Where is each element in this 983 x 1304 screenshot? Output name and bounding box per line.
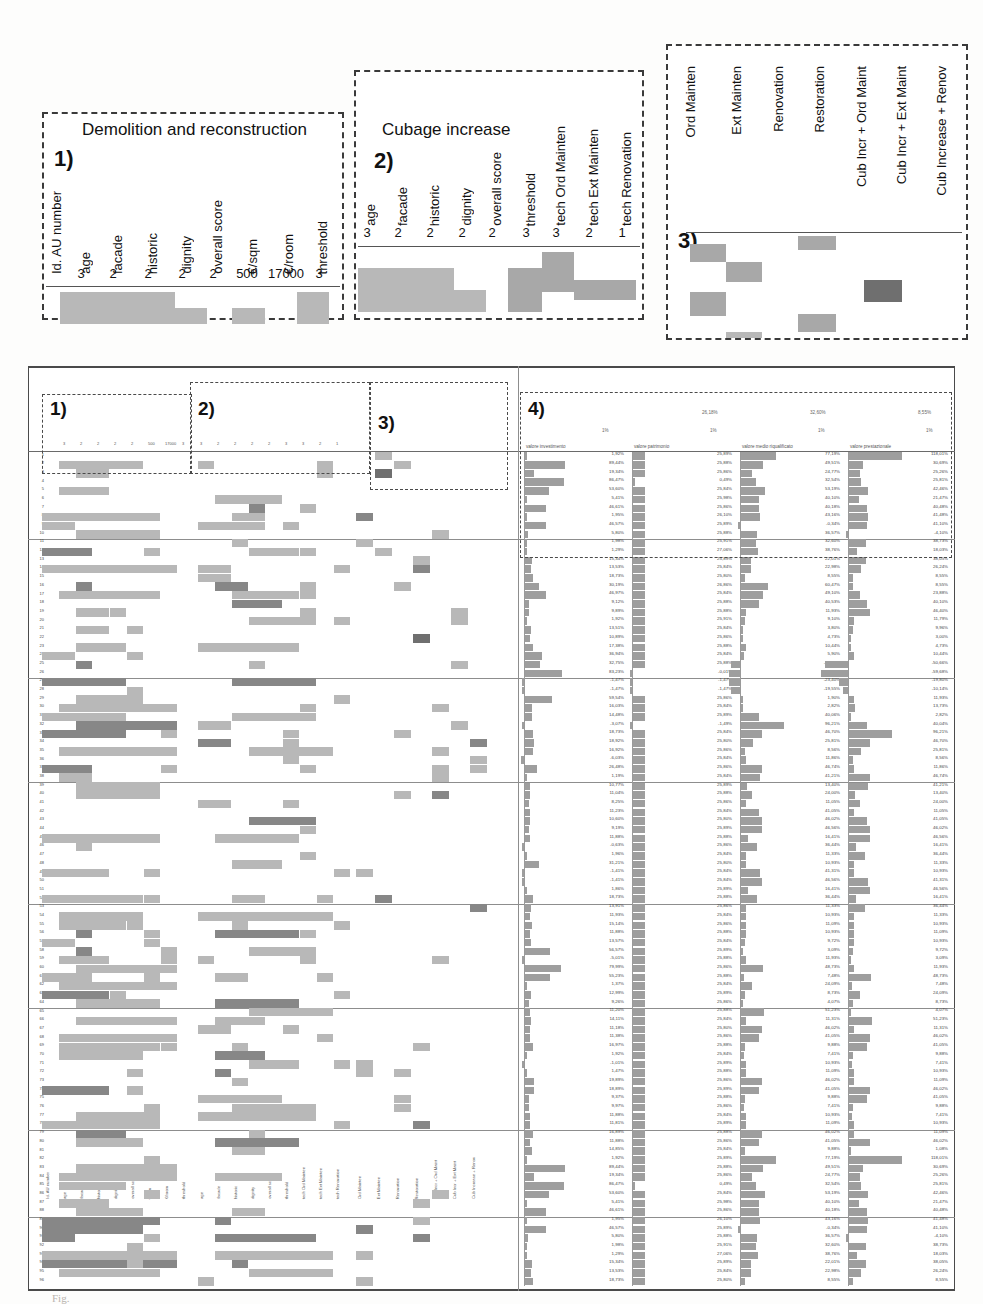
- panel4-value-label: 1,95%: [582, 1217, 624, 1221]
- panel4-value-label: 25,86%: [690, 904, 732, 908]
- panel4-bar: [741, 948, 743, 955]
- panel4-value-label: 11,93%: [798, 609, 840, 613]
- panel4-bar: [741, 583, 768, 590]
- panel4-bar: [525, 1165, 565, 1172]
- matrix-mini-col-label: €/room: [165, 1186, 169, 1199]
- col-label-cub-increase-renov: Cub Increase + Renov: [935, 66, 948, 196]
- panel4-bar: [633, 635, 645, 642]
- panel4-value-label: -3,07%: [582, 722, 624, 726]
- matrix-row-number: 15: [30, 574, 44, 578]
- panel4-bar: [741, 852, 746, 859]
- matrix-cell: [161, 947, 177, 955]
- panel4-bar: [839, 678, 848, 685]
- panel4-bar: [741, 1087, 759, 1094]
- panel4-bar: [525, 713, 532, 720]
- panel4-bar: [849, 635, 851, 642]
- matrix-cell: [249, 504, 265, 512]
- panel4-value-label: 40,10%: [798, 1200, 840, 1204]
- matrix-cell: [232, 713, 316, 721]
- panel4-bar: [741, 565, 751, 572]
- panel4-value-label: 11,86%: [906, 765, 948, 769]
- panel4-bar: [525, 887, 527, 894]
- matrix-row-number: 77: [30, 1113, 44, 1117]
- panel4-value-label: 46,40%: [906, 609, 948, 613]
- panel4-value-label: 24,09%: [906, 991, 948, 995]
- panel4-value-label: 8,73%: [906, 1000, 948, 1004]
- matrix-row-number: 20: [30, 618, 44, 622]
- col-label-renovation: Renovation: [772, 66, 785, 132]
- col-value-facade: 2: [389, 225, 407, 240]
- panel4-bar: [843, 687, 848, 694]
- matrix-cell: [432, 773, 449, 781]
- matrix-cell: [42, 991, 109, 999]
- panel4-bar: [633, 878, 645, 885]
- panel4-bar: [849, 878, 868, 885]
- matrix-cell: [283, 800, 299, 808]
- matrix-row-number: 65: [30, 1009, 44, 1013]
- panel4-bar: [525, 1043, 533, 1050]
- panel4-value-label: 86,47%: [582, 1182, 624, 1186]
- panel4-bar: [525, 1113, 530, 1120]
- panel4-value-label: 25,86%: [690, 1104, 732, 1108]
- matrix-cell: [215, 930, 299, 938]
- panel4-bar: [633, 1078, 645, 1085]
- panel4-bar: [525, 974, 550, 981]
- panel4-value-label: 41,05%: [798, 1139, 840, 1143]
- matrix-cell: [334, 695, 350, 703]
- panel4-bar: [849, 626, 853, 633]
- matrix-cell: [76, 582, 92, 590]
- panel4-value-label: 25,89%: [690, 991, 732, 995]
- matrix-cell: [249, 747, 333, 755]
- col-label-overall-score: overall score: [211, 200, 224, 274]
- panel4-value-label: 11,33%: [906, 913, 948, 917]
- panel4-bar: [633, 1217, 645, 1224]
- col-value-tech-ext: 2: [580, 225, 598, 240]
- panel4-bar: [633, 1234, 645, 1241]
- panel4-value-label: 13,57%: [582, 939, 624, 943]
- panel4-value-label: 18,89%: [582, 1087, 624, 1091]
- matrix-cell: [232, 921, 248, 929]
- panel4-bar: [849, 1156, 902, 1163]
- matrix-cell: [60, 308, 207, 324]
- panel4-value-label: 32,75%: [582, 661, 624, 665]
- matrix-cell: [394, 791, 411, 799]
- panel4-bar: [633, 930, 645, 937]
- matrix-row-number: 36: [30, 757, 44, 761]
- panel4-bar: [741, 765, 762, 772]
- matrix-cell: [198, 1095, 282, 1103]
- panel4-bar: [633, 1208, 645, 1215]
- panel4-value-label: 25,84%: [690, 878, 732, 882]
- matrix-cell: [864, 280, 902, 302]
- panel4-value-label: 17,38%: [582, 644, 624, 648]
- panel4-bar: [741, 913, 746, 920]
- matrix-cell: [127, 1208, 143, 1216]
- matrix-row-number: 70: [30, 1052, 44, 1056]
- matrix-cell: [161, 1164, 177, 1172]
- panel4-bar: [849, 904, 865, 911]
- panel4-value-label: 11,09%: [798, 922, 840, 926]
- zoom-region-4[interactable]: [520, 392, 952, 558]
- panel4-bar: [849, 965, 854, 972]
- panel4-value-label: 46,70%: [798, 730, 840, 734]
- panel4-value-label: -0,34%: [798, 1226, 840, 1230]
- matrix-cell: [59, 912, 143, 920]
- matrix-cell: [215, 582, 248, 590]
- zoom-region-2[interactable]: [190, 382, 370, 474]
- panel4-value-label: 96,21%: [798, 722, 840, 726]
- panel4-bar: [741, 756, 746, 763]
- matrix-row-number: 86: [30, 1191, 44, 1195]
- matrix-cell: [59, 487, 109, 495]
- matrix-row-number: 92: [30, 1243, 44, 1247]
- matrix-cell: [144, 1190, 160, 1198]
- panel4-bar: [741, 965, 763, 972]
- panel4-bar: [633, 1139, 645, 1146]
- panel4-bar: [741, 895, 757, 902]
- panel4-value-label: 40,48%: [906, 1208, 948, 1212]
- matrix-row-number: 66: [30, 1017, 44, 1021]
- zoom-region-3[interactable]: [370, 382, 508, 490]
- panel4-bar: [731, 687, 740, 694]
- matrix-cell: [42, 895, 143, 903]
- panel4-value-label: 25,86%: [690, 800, 732, 804]
- panel4-bar: [741, 1260, 751, 1267]
- panel4-bar: [741, 644, 746, 651]
